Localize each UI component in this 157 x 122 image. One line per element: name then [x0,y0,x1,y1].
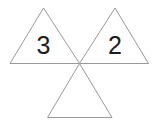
figure-canvas: 3 2 [0,0,157,122]
bottom-triangle [48,64,113,118]
triangles-diagram: 3 2 [0,0,157,122]
left-triangle-label: 3 [37,31,51,59]
right-triangle-label: 2 [108,31,122,59]
